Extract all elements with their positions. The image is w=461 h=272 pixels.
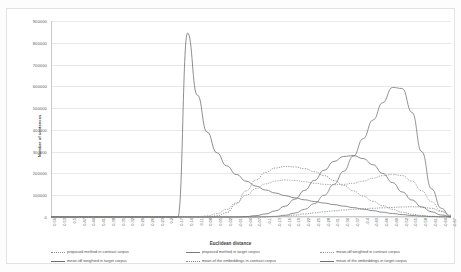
x-tick-label: -0.04 xyxy=(248,218,253,227)
legend-label: proposed method in contrast corpus xyxy=(67,249,129,254)
x-tick-label: 0.17 xyxy=(179,218,184,226)
legend-label: proposed method in target corpus xyxy=(202,249,260,254)
chart-legend: proposed method in contrast corpuspropos… xyxy=(51,248,451,264)
x-tick-label: -0.22 xyxy=(306,218,311,227)
y-tick-label: 0 xyxy=(45,215,47,220)
legend-label: mean of the embeddings in target corpus xyxy=(336,258,407,263)
x-tick-label: -0.1 xyxy=(267,218,272,225)
y-tick-label: 900000 xyxy=(33,19,47,24)
y-tick-label: 400000 xyxy=(33,127,47,132)
x-tick-label: 0.47 xyxy=(82,218,87,226)
series-line xyxy=(51,207,451,217)
legend-swatch-solid-icon xyxy=(51,259,65,262)
x-tick-label: -0.4 xyxy=(365,218,370,225)
legend-swatch-solid-icon xyxy=(320,259,334,262)
x-tick-label: 0.29 xyxy=(140,218,145,226)
x-tick-label: -0.67 xyxy=(452,218,457,227)
x-tick-label: -0.55 xyxy=(413,218,418,227)
legend-item[interactable]: mean-idf weighted in contrast corpus xyxy=(320,249,451,254)
x-axis-ticks: 0.560.530.50.470.440.410.380.350.320.290… xyxy=(51,218,451,242)
x-tick-label: 0.05 xyxy=(218,218,223,226)
x-tick-label: -0.52 xyxy=(404,218,409,227)
x-tick-label: -0.28 xyxy=(326,218,331,227)
series-line xyxy=(51,87,451,217)
x-tick-label: -0.16 xyxy=(287,218,292,227)
x-tick-label: -0.25 xyxy=(316,218,321,227)
x-tick-label: -0.64 xyxy=(443,218,448,227)
x-tick-label: -0.37 xyxy=(355,218,360,227)
legend-item[interactable]: mean of the embeddings in contrast corpu… xyxy=(186,258,317,263)
x-tick-label: 0.11 xyxy=(199,218,204,226)
x-tick-label: 0.02 xyxy=(228,218,233,226)
x-tick-label: -0.49 xyxy=(394,218,399,227)
legend-swatch-solid-icon xyxy=(186,250,200,253)
x-tick-label: 0.08 xyxy=(208,218,213,226)
x-tick-label: -0.34 xyxy=(345,218,350,227)
x-tick-label: 0.44 xyxy=(91,218,96,226)
y-tick-label: 100000 xyxy=(33,193,47,198)
x-tick-label: -0.61 xyxy=(433,218,438,227)
x-tick-label: 0.14 xyxy=(189,218,194,226)
plot-area: 9000008000007000006000005000004000003000… xyxy=(51,21,451,217)
legend-item[interactable]: mean-idf weighted in target corpus xyxy=(51,258,182,263)
y-tick-label: 700000 xyxy=(33,62,47,67)
x-tick-label: 0.5 xyxy=(72,218,77,224)
x-tick-label: -0.46 xyxy=(384,218,389,227)
legend-swatch-dotted-icon xyxy=(186,259,200,262)
x-tick-label: 0.23 xyxy=(160,218,165,226)
x-tick-label: 0.53 xyxy=(62,218,67,226)
legend-item[interactable]: mean of the embeddings in target corpus xyxy=(320,258,451,263)
x-tick-label: -0.07 xyxy=(257,218,262,227)
x-tick-label: 0.38 xyxy=(111,218,116,226)
x-tick-label: -0.58 xyxy=(423,218,428,227)
y-tick-label: 500000 xyxy=(33,106,47,111)
x-tick-label: -0.31 xyxy=(335,218,340,227)
chart-frame: Number of sentences 90000080000070000060… xyxy=(6,8,455,264)
legend-swatch-dotted-icon xyxy=(320,250,334,253)
legend-swatch-dotted-icon xyxy=(51,250,65,253)
legend-item[interactable]: proposed method in target corpus xyxy=(186,249,317,254)
x-axis-title: Euclidean distance xyxy=(7,241,454,246)
legend-label: mean-idf weighted in contrast corpus xyxy=(336,249,400,254)
x-tick-label: 0.32 xyxy=(130,218,135,226)
x-tick-label: -0.13 xyxy=(277,218,282,227)
legend-item[interactable]: proposed method in contrast corpus xyxy=(51,249,182,254)
x-tick-label: 0.26 xyxy=(150,218,155,226)
x-tick-label: 0.41 xyxy=(101,218,106,226)
y-tick-label: 800000 xyxy=(33,40,47,45)
y-tick-label: 200000 xyxy=(33,171,47,176)
series-curves xyxy=(51,21,451,217)
y-tick-label: 600000 xyxy=(33,84,47,89)
y-tick-label: 300000 xyxy=(33,149,47,154)
x-tick-label: -0.43 xyxy=(374,218,379,227)
x-tick-label: 0.56 xyxy=(52,218,57,226)
x-tick-label: -0.01 xyxy=(238,218,243,227)
chart-screenshot: Number of sentences 90000080000070000060… xyxy=(0,0,461,272)
legend-label: mean-idf weighted in target corpus xyxy=(67,258,127,263)
series-line xyxy=(51,33,451,217)
x-tick-label: 0.2 xyxy=(169,218,174,224)
legend-label: mean of the embeddings in contrast corpu… xyxy=(202,258,277,263)
series-line xyxy=(51,174,451,217)
x-tick-label: 0.35 xyxy=(121,218,126,226)
x-tick-label: -0.19 xyxy=(296,218,301,227)
